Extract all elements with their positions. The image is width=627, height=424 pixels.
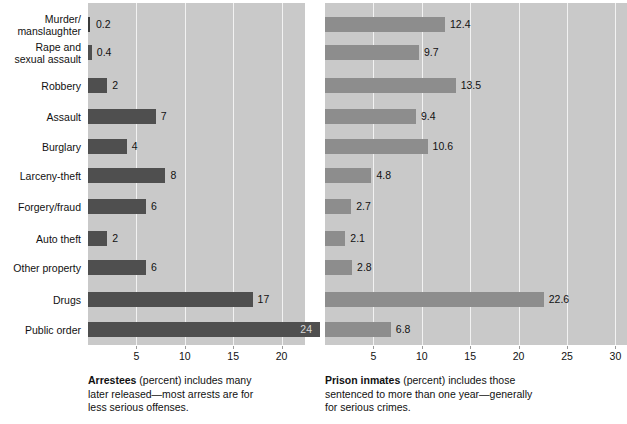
bar-value-label: 2 — [112, 78, 118, 93]
bar — [325, 139, 428, 154]
bar-value-label: 2 — [112, 231, 118, 246]
bar — [325, 322, 391, 337]
axis-tick-label: 10 — [416, 349, 428, 363]
bar — [88, 260, 146, 275]
category-label: Public order — [25, 325, 81, 337]
caption-arrestees: Arrestees (percent) includes many later … — [88, 374, 273, 415]
gridline — [282, 3, 283, 345]
axis-tick-label: 20 — [513, 349, 525, 363]
x-axis-arrestees: 5101520 — [88, 349, 305, 367]
axis-tick-label: 5 — [133, 349, 139, 363]
bar-value-label: 9.4 — [421, 109, 436, 124]
bar-value-label: 6 — [151, 260, 157, 275]
bar-value-label: 17 — [258, 292, 270, 307]
caption-title: Arrestees — [88, 374, 136, 386]
bar-value-label: 4.8 — [376, 168, 391, 183]
bar — [88, 322, 320, 337]
bar-value-label: 8 — [170, 168, 176, 183]
chart-figure: Murder/ manslaughterRape and sexual assa… — [0, 0, 627, 424]
bar — [88, 231, 107, 246]
bar-value-label: 6 — [151, 199, 157, 214]
bar — [325, 17, 445, 32]
bar — [88, 109, 156, 124]
bar — [325, 109, 416, 124]
axis-tick-label: 10 — [179, 349, 191, 363]
bar — [88, 199, 146, 214]
plot-area-prison-inmates: 12.49.713.59.410.64.82.72.12.822.66.8 — [325, 3, 627, 345]
bar-value-label: 24 — [300, 322, 312, 337]
category-label: Robbery — [41, 81, 81, 93]
category-label: Murder/ manslaughter — [17, 14, 81, 37]
bar-value-label: 2.8 — [357, 260, 372, 275]
bar-value-label: 0.4 — [97, 45, 112, 60]
category-label: Other property — [13, 263, 81, 275]
category-label: Rape and sexual assault — [14, 42, 81, 65]
bar-value-label: 0.2 — [96, 17, 111, 32]
bar — [325, 199, 351, 214]
category-label: Burglary — [42, 142, 81, 154]
bar-value-label: 2.7 — [356, 199, 371, 214]
bar — [88, 139, 127, 154]
category-label: Larceny-theft — [20, 171, 81, 183]
category-label: Auto theft — [36, 234, 81, 246]
category-label: Drugs — [53, 295, 81, 307]
axis-tick-label: 15 — [464, 349, 476, 363]
plot-area-arrestees: 0.20.427486261724 — [88, 3, 305, 345]
gridline — [615, 3, 616, 345]
caption-prison-inmates: Prison inmates (percent) includes those … — [325, 374, 540, 415]
bar-value-label: 22.6 — [549, 292, 569, 307]
category-label-column: Murder/ manslaughterRape and sexual assa… — [0, 0, 85, 345]
axis-tick-label: 25 — [561, 349, 573, 363]
bar-stub — [88, 17, 90, 32]
bar — [325, 292, 544, 307]
category-label: Forgery/fraud — [18, 202, 81, 214]
bar-value-label: 7 — [161, 109, 167, 124]
bar-value-label: 13.5 — [461, 78, 481, 93]
bar-value-label: 10.6 — [433, 139, 453, 154]
bar — [325, 78, 456, 93]
bar-value-label: 9.7 — [424, 45, 439, 60]
bar — [325, 260, 352, 275]
caption-title: Prison inmates — [325, 374, 400, 386]
bar — [88, 45, 92, 60]
axis-tick-label: 15 — [227, 349, 239, 363]
axis-tick-label: 5 — [370, 349, 376, 363]
bar-value-label: 12.4 — [450, 17, 470, 32]
bar — [325, 231, 345, 246]
bar-value-label: 2.1 — [350, 231, 365, 246]
category-label: Assault — [47, 112, 81, 124]
bar — [325, 45, 419, 60]
bar-value-label: 4 — [132, 139, 138, 154]
bar-value-label: 6.8 — [396, 322, 411, 337]
x-axis-prison-inmates: 51015202530 — [325, 349, 627, 367]
bar — [325, 168, 371, 183]
bar — [88, 168, 165, 183]
bar — [88, 78, 107, 93]
axis-tick-label: 30 — [610, 349, 622, 363]
bar — [88, 292, 253, 307]
axis-tick-label: 20 — [276, 349, 288, 363]
